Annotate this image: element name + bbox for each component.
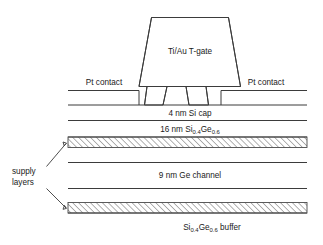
supply-layer-leader-lower <box>47 189 67 209</box>
si-cap-label: 4 nm Si cap <box>168 109 212 118</box>
supply-layer-leader-upper <box>47 144 67 167</box>
upper-supply-layer-band <box>68 137 307 148</box>
supply-layers-label-line2: layers <box>12 178 34 187</box>
supply-layers-label-line1: supply <box>12 167 37 176</box>
supply-layer-arrowhead-upper <box>63 142 67 146</box>
sige-barrier-label: 16 nm Si0.4Ge0.6 <box>160 125 220 135</box>
t-gate-label: Ti/Au T-gate <box>168 47 213 56</box>
device-cross-section-diagram: Ti/Au T-gate Pt contact Pt contact 4 nm … <box>0 0 323 245</box>
device-schematic-canvas: Ti/Au T-gate Pt contact Pt contact 4 nm … <box>0 0 323 245</box>
left-pt-contact-label: Pt contact <box>86 78 123 87</box>
ge-channel-label: 9 nm Ge channel <box>159 171 222 180</box>
right-pt-contact-shape[interactable] <box>221 91 307 106</box>
sige-buffer-label: Si0.4Ge0.6 buffer <box>183 223 241 233</box>
left-pt-contact-shape[interactable] <box>68 91 139 106</box>
right-pt-contact-label: Pt contact <box>248 78 285 87</box>
lower-supply-layer-band <box>68 203 307 214</box>
